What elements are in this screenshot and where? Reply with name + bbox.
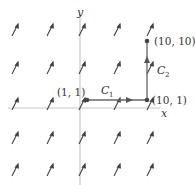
point-label-10-10: (10, 10) (154, 35, 195, 47)
field-arrowhead-icon (82, 132, 85, 136)
field-arrowhead-icon (150, 164, 153, 168)
field-arrowhead-icon (150, 132, 153, 136)
point-10-1 (145, 98, 150, 103)
field-arrowhead-icon (15, 98, 18, 102)
field-arrowhead-icon (117, 132, 120, 136)
field-arrowhead-icon (82, 62, 85, 66)
field-arrowhead-icon (82, 24, 85, 28)
path-c1-arrow-icon (126, 97, 133, 103)
point-label-1-1: (1, 1) (57, 86, 85, 98)
field-arrowhead-icon (15, 132, 18, 136)
field-arrowhead-icon (50, 62, 53, 66)
field-arrowhead-icon (50, 132, 53, 136)
x-axis-label: x (161, 107, 168, 120)
point-label-10-1: (10, 1) (152, 94, 187, 106)
point-10-10 (145, 39, 150, 44)
path-label-c1: C 1 (101, 84, 113, 99)
field-arrowhead-icon (82, 164, 85, 168)
point-1-1 (85, 98, 90, 103)
field-arrowhead-icon (15, 164, 18, 168)
field-arrowhead-icon (15, 62, 18, 66)
svg-text:1: 1 (109, 91, 113, 99)
vector-field-diagram: y x (1, 1) (10, 1) (10, 10) C 1 C 2 (0, 0, 195, 185)
path-c2-arrow-icon (144, 56, 150, 63)
field-arrowhead-icon (117, 24, 120, 28)
field-arrowhead-icon (117, 164, 120, 168)
field-arrowhead-icon (117, 62, 120, 66)
path-label-c2: C 2 (157, 64, 169, 79)
svg-text:2: 2 (165, 71, 169, 79)
field-arrowhead-icon (150, 62, 153, 66)
y-axis-label: y (76, 6, 84, 19)
field-arrowhead-icon (50, 164, 53, 168)
field-arrowhead-icon (50, 98, 53, 102)
field-arrowhead-icon (150, 24, 153, 28)
field-arrowhead-icon (15, 24, 18, 28)
field-arrowhead-icon (50, 24, 53, 28)
